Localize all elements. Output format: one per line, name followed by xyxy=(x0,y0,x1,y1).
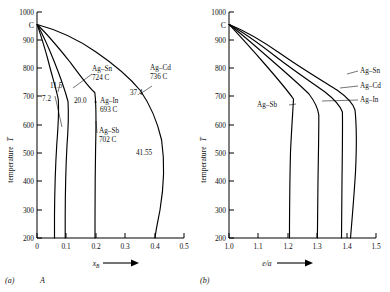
axis-lines xyxy=(37,12,184,238)
leader-ag-sn xyxy=(347,71,358,74)
panel-b: 1000 900 800 700 600 500 400 300 200 1.0 xyxy=(195,0,390,292)
y-ticklabel-1000: 1000 xyxy=(19,8,34,17)
y-ticklabel-900: 900 xyxy=(23,36,34,45)
curve-ag-cd xyxy=(229,25,342,239)
panel-b-svg: 1000 900 800 700 600 500 400 300 200 1.0 xyxy=(195,0,390,292)
x-axis-arrow-icon xyxy=(277,260,313,267)
x-axis-title-sub: B xyxy=(96,263,100,269)
y-ticklabel-600: 600 xyxy=(23,121,34,130)
svg-text:temperature T: temperature T xyxy=(6,137,15,183)
x-ticklabel-1-2: 1.2 xyxy=(283,242,293,251)
panel-a-svg: 1000 900 800 700 600 500 400 300 200 xyxy=(0,0,195,292)
x-ticklabel-0-3: 0.3 xyxy=(120,242,130,251)
y-ticks xyxy=(229,12,234,238)
annot-value-7-2: 7.2 xyxy=(42,95,51,103)
y-ticklabel-1000: 1000 xyxy=(211,8,226,17)
annot-value-41-55: 41.55 xyxy=(136,149,153,157)
panel-a-tag: (a) xyxy=(5,276,15,285)
y-axis-title: temperature T xyxy=(6,137,15,183)
curve-ag-sn xyxy=(37,25,96,239)
svg-text:temperature T: temperature T xyxy=(199,137,208,183)
y-axis-title-text: temperature xyxy=(6,146,15,183)
y-ticklabel-300: 300 xyxy=(23,206,34,215)
x-axis-arrow-icon xyxy=(103,260,139,267)
panel-b-axes: 1000 900 800 700 600 500 400 300 200 1.0 xyxy=(211,8,381,251)
y-axis-title-symbol: T xyxy=(199,137,208,142)
x-axis-title-text: e/a xyxy=(262,259,271,268)
curves-panel-b xyxy=(229,25,356,239)
y-ticklabel-400: 400 xyxy=(215,177,226,186)
x-ticklabel-0-5: 0.5 xyxy=(179,242,189,251)
y-axis-title-text: temperature xyxy=(199,146,208,183)
annot-ag-in-temp: 693 C xyxy=(100,106,118,114)
x-ticklabel-1-3: 1.3 xyxy=(312,242,322,251)
y-ticklabel-500: 500 xyxy=(215,149,226,158)
annot-value-37-4: 37.4 xyxy=(130,89,143,97)
axis-lines xyxy=(229,12,376,238)
y-axis-title: temperature T xyxy=(199,137,208,183)
annot-ag-sn-temp: 724 C xyxy=(92,74,110,82)
svg-text:xB: xB xyxy=(92,259,100,269)
annot-ag-cd-name: Ag–Cd xyxy=(150,64,171,72)
y-ticklabel-500: 500 xyxy=(23,149,34,158)
y-ticklabel-900: 900 xyxy=(215,36,226,45)
annot-ag-cd-temp: 736 C xyxy=(150,73,168,81)
y-ticklabel-300: 300 xyxy=(215,206,226,215)
x-ticks xyxy=(229,233,376,238)
curve-ag-sb xyxy=(37,25,58,239)
y-ticklabel-800: 800 xyxy=(23,64,34,73)
origin-label-c: C xyxy=(29,21,34,30)
annot-ag-in: Ag–In xyxy=(360,96,379,104)
x-ticklabel-1-5: 1.5 xyxy=(371,242,381,251)
x-ticklabel-0-1: 0.1 xyxy=(61,242,71,251)
y-ticklabel-700: 700 xyxy=(215,92,226,101)
y-ticklabel-400: 400 xyxy=(23,177,34,186)
annot-ag-sb: Ag–Sb xyxy=(257,101,277,109)
curve-ag-sn xyxy=(229,25,356,239)
annot-ag-sn-name: Ag–Sn xyxy=(92,65,112,73)
x-ticklabel-0-4: 0.4 xyxy=(150,242,160,251)
annotation-leaders-b xyxy=(289,71,358,105)
origin-label-c: C xyxy=(221,21,226,30)
y-ticklabel-800: 800 xyxy=(215,64,226,73)
curve-ag-in xyxy=(229,25,319,239)
curve-ag-in xyxy=(37,25,68,239)
leader-ag-sb xyxy=(289,104,296,105)
y-ticks xyxy=(37,12,42,238)
annot-value-20-0: 20.0 xyxy=(74,97,87,105)
y-ticklabel-200: 200 xyxy=(23,234,34,243)
annot-ag-sb-name: Ag–Sb xyxy=(99,127,119,135)
annot-ag-in-name: Ag–In xyxy=(100,97,119,105)
x-axis-title: xB xyxy=(92,259,139,269)
x-ticks xyxy=(37,233,184,238)
annot-value-11-5: 11.5 xyxy=(50,82,63,90)
annot-ag-cd: Ag–Cd xyxy=(360,82,381,90)
x-ticklabel-1-4: 1.4 xyxy=(342,242,352,251)
panel-a: 1000 900 800 700 600 500 400 300 200 xyxy=(0,0,195,292)
annot-ag-sn: Ag–Sn xyxy=(360,67,380,75)
y-ticklabel-700: 700 xyxy=(23,92,34,101)
annot-ag-sb-temp: 702 C xyxy=(99,136,117,144)
x-ticklabel-1-0: 1.0 xyxy=(224,242,234,251)
panel-a-corner-label: A xyxy=(39,276,45,285)
figure-container: 1000 900 800 700 600 500 400 300 200 xyxy=(0,0,390,292)
leader-ag-in xyxy=(322,100,358,101)
panel-b-tag: (b) xyxy=(200,276,210,285)
y-axis-title-symbol: T xyxy=(6,137,15,142)
leader-ag-cd xyxy=(340,86,358,88)
x-ticklabel-0: 0 xyxy=(35,242,39,251)
x-ticklabel-0-2: 0.2 xyxy=(91,242,101,251)
y-ticklabel-600: 600 xyxy=(215,121,226,130)
x-axis-title: e/a xyxy=(262,259,313,268)
x-ticklabel-1-1: 1.1 xyxy=(253,242,263,251)
